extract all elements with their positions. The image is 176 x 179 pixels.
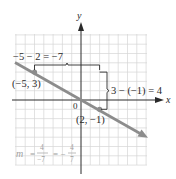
slope-den2: 7 [70, 155, 74, 164]
slope-num1: 4 [40, 143, 44, 152]
slope-eq1: = [30, 149, 35, 159]
coordinate-plane: x y 0 −5 − 2 = −7 3 − (−1) = 4 (−5, 3) (… [0, 0, 176, 179]
rise-annotation: 3 − (−1) = 4 [111, 85, 163, 97]
origin-label: 0 [73, 101, 78, 111]
x-axis-label: x [165, 94, 171, 105]
x-axis-arrow-icon [155, 97, 164, 103]
slope-num2: 4 [70, 143, 74, 152]
point-label-neg5-3: (−5, 3) [12, 78, 41, 90]
point-neg5-3 [32, 70, 37, 75]
point-label-2-neg1: (2, −1) [76, 114, 105, 126]
y-axis-label: y [76, 10, 82, 21]
run-bracket [35, 63, 100, 70]
y-axis-arrow-icon [78, 22, 84, 31]
run-annotation: −5 − 2 = −7 [13, 51, 63, 62]
slope-eq2: = − [53, 149, 65, 159]
slope-den1: −7 [37, 155, 45, 164]
slope-m: m [16, 148, 23, 159]
